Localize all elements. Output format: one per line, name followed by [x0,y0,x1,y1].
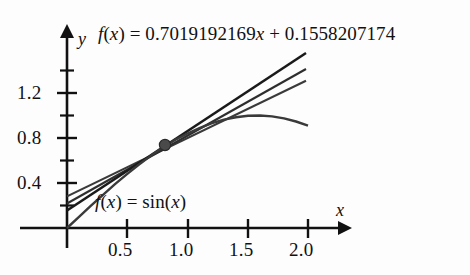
x-tick-label-1: 0.5 [108,240,132,259]
sine-tangent-chart: 1.2 0.8 0.4 0.5 1.0 1.5 2.0 y x f(x) = 0… [0,0,470,275]
y-tick-label-2: 0.8 [17,128,41,147]
secant-line-shallow [67,81,306,197]
x-axis-label: x [336,201,344,219]
y-tick-label-3: 0.4 [17,173,41,192]
tangent-eq-intercept: 0.1558207174 [285,23,395,44]
x-tick-label-4: 2.0 [289,240,313,259]
secant-line-middle [67,69,306,204]
tangent-equation-label: f(x) = 0.7019192169x + 0.1558207174 [98,24,395,43]
tangent-eq-slope: 0.7019192169 [145,23,255,44]
function-equation-label: f(x) = sin(x) [95,192,186,211]
fn-eq-arg: x [171,191,180,212]
tangent-eq-equals: = [125,23,146,44]
tangent-point-marker [159,139,170,150]
fn-eq-name: sin [142,191,164,212]
x-tick-label-2: 1.0 [169,240,193,259]
fn-eq-arg-close: ) [180,191,186,212]
tangent-line [67,53,306,211]
y-axis [60,24,74,248]
tangent-eq-plus: + [264,23,285,44]
y-tick-label-1: 1.2 [17,83,41,102]
x-tick-label-3: 1.5 [229,240,253,259]
fn-eq-equals: = [122,191,143,212]
x-axis [20,221,352,235]
y-axis-label: y [78,30,86,48]
